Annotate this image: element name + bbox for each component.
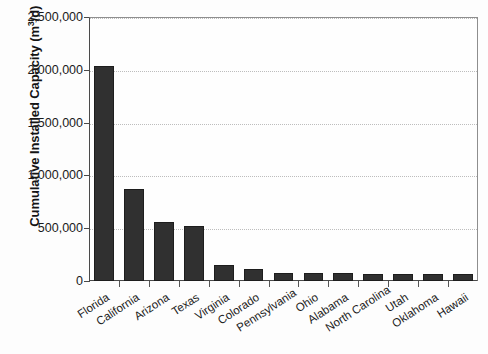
x-axis-tick-mark (388, 281, 389, 287)
x-axis-tick-mark (209, 281, 210, 287)
bar (154, 222, 174, 281)
bar (214, 265, 234, 281)
bar (363, 274, 383, 281)
x-axis-tick-mark (448, 281, 449, 287)
bar (124, 189, 144, 281)
bar (423, 274, 443, 281)
y-axis-tick-label: 1,500,000 (0, 116, 83, 130)
x-axis-tick-mark (119, 281, 120, 287)
x-axis-tick-mark (328, 281, 329, 287)
y-axis-tick-label: 1,000,000 (0, 168, 83, 182)
x-axis-tick-mark (269, 281, 270, 287)
bar (274, 273, 294, 281)
bar (244, 269, 264, 281)
x-axis-tick-mark (179, 281, 180, 287)
x-axis-tick-mark (298, 281, 299, 287)
y-axis-tick-label: 2,000,000 (0, 63, 83, 77)
bar-chart-figure: Cumulative Installed Capacity (m3/d) 050… (0, 0, 488, 354)
bar (94, 66, 114, 281)
bar (453, 274, 473, 281)
x-axis-tick-mark (149, 281, 150, 287)
bar (184, 226, 204, 281)
x-axis-tick-mark (239, 281, 240, 287)
bar (304, 273, 324, 281)
bar (393, 274, 413, 281)
x-axis-tick-mark (358, 281, 359, 287)
bar-series (89, 17, 478, 281)
y-axis-tick-mark (84, 281, 90, 282)
bar (333, 273, 353, 281)
y-axis-tick-label: 500,000 (0, 221, 83, 235)
x-axis-tick-mark (418, 281, 419, 287)
y-axis-tick-label: 2,500,000 (0, 10, 83, 24)
y-axis-tick-label: 0 (0, 274, 83, 288)
